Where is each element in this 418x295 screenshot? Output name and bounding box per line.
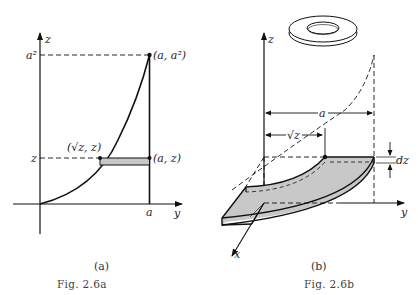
x-axis-label-b: x: [234, 248, 241, 261]
slab-corner-point: [323, 155, 327, 159]
shaded-strip: [100, 158, 150, 165]
tick-z-label: z: [30, 152, 37, 165]
z-axis-label-b: z: [267, 33, 274, 46]
caption-a: Fig. 2.6a: [57, 278, 107, 290]
point-right: [148, 156, 152, 160]
dim-dz-label: dz: [396, 154, 409, 167]
dim-a-label: a: [319, 107, 326, 120]
point-right-label: (a, z): [153, 152, 181, 165]
point-curve: [98, 156, 102, 160]
z-axis-label: z: [44, 33, 51, 46]
figure-canvas: z y a² z a (a, a²) (√z, z) (a, z) (a) Fi…: [0, 0, 418, 295]
slab-top-dashed-diag: [245, 157, 264, 188]
tick-a-label: a: [146, 206, 153, 219]
figure-b: z a √z: [222, 16, 410, 290]
point-curve-label: (√z, z): [67, 141, 101, 154]
dim-sqrtz-label: √z: [287, 129, 300, 142]
figure-a: z y a² z a (a, a²) (√z, z) (a, z) (a) Fi…: [13, 33, 186, 290]
washer-inset: [289, 16, 357, 46]
caption-b: Fig. 2.6b: [304, 278, 354, 290]
tick-a2-label: a²: [26, 49, 37, 62]
point-top: [147, 53, 151, 57]
y-axis-label-b: y: [400, 206, 408, 219]
sublabel-b: (b): [311, 260, 327, 273]
parabola-curve: [40, 55, 150, 204]
sublabel-a: (a): [94, 260, 109, 273]
point-top-label: (a, a²): [153, 49, 186, 62]
washer-slab: [222, 157, 375, 227]
y-axis-label: y: [173, 207, 181, 220]
